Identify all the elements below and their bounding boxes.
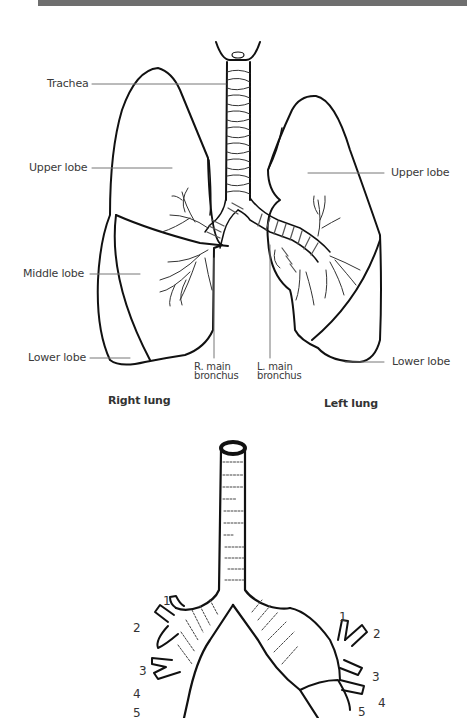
label-right-upper-lobe: Upper lobe (29, 162, 87, 174)
left-segment-2: 2 (373, 628, 381, 640)
right-segment-3: 3 (139, 665, 147, 677)
right-segment-4: 4 (133, 688, 141, 700)
label-right-middle-lobe: Middle lobe (23, 268, 84, 280)
label-left-lower-lobe: Lower lobe (392, 356, 450, 368)
label-right-lung: Right lung (108, 395, 170, 407)
label-left-upper-lobe: Upper lobe (391, 167, 449, 179)
right-segment-1: 1 (163, 595, 171, 607)
left-segment-5: 5 (358, 706, 366, 718)
right-segment-2: 2 (133, 622, 141, 634)
label-l-main-bronchus-2: bronchus (257, 371, 301, 380)
right-segment-5: 5 (133, 707, 141, 718)
left-segment-4: 4 (378, 697, 386, 709)
left-segment-3: 3 (372, 671, 380, 683)
label-right-lower-lobe: Lower lobe (28, 352, 86, 364)
lung-diagram: Trachea Upper lobe Middle lobe Lower lob… (0, 0, 467, 718)
left-segment-1: 1 (339, 611, 347, 623)
label-trachea: Trachea (47, 78, 89, 90)
label-left-lung: Left lung (324, 398, 378, 410)
label-r-main-bronchus-2: bronchus (194, 371, 238, 380)
